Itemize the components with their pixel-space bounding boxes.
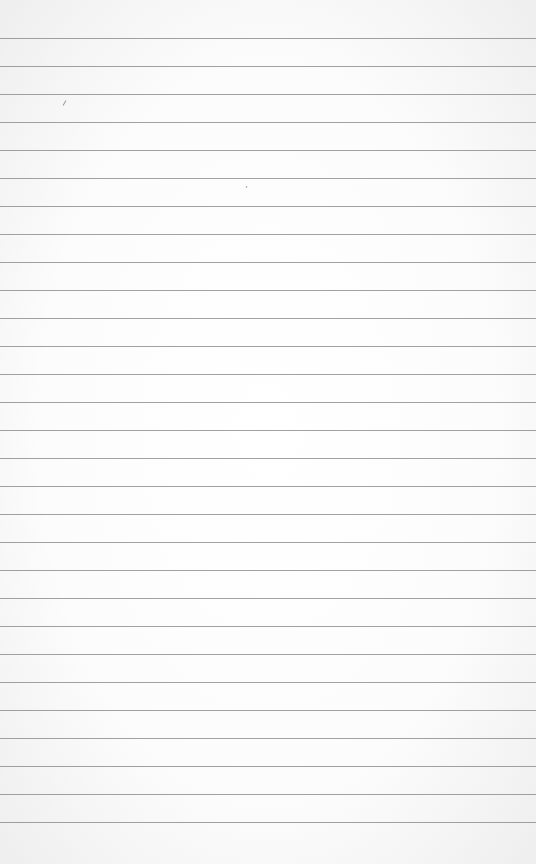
ruled-line (0, 430, 536, 431)
ruled-line (0, 486, 536, 487)
ruled-line (0, 178, 536, 179)
ruled-line (0, 206, 536, 207)
lined-paper (0, 0, 536, 864)
ruled-line (0, 122, 536, 123)
ruled-line (0, 374, 536, 375)
speck-mark (246, 186, 248, 188)
ruled-line (0, 318, 536, 319)
ruled-line (0, 822, 536, 823)
ruled-line (0, 234, 536, 235)
ruled-line (0, 346, 536, 347)
ruled-line (0, 738, 536, 739)
ruled-line (0, 542, 536, 543)
ruled-line (0, 794, 536, 795)
ruled-line (0, 682, 536, 683)
ruled-line (0, 766, 536, 767)
ruled-line (0, 150, 536, 151)
ruled-line (0, 458, 536, 459)
ruled-line (0, 262, 536, 263)
ruled-line (0, 654, 536, 655)
ruled-line (0, 66, 536, 67)
ruled-line (0, 626, 536, 627)
ruled-line (0, 514, 536, 515)
ruled-line (0, 710, 536, 711)
ruled-line (0, 38, 536, 39)
ruled-line (0, 290, 536, 291)
ruled-line (0, 570, 536, 571)
pencil-mark (63, 100, 67, 106)
ruled-line (0, 94, 536, 95)
ruled-line (0, 598, 536, 599)
ruled-line (0, 402, 536, 403)
